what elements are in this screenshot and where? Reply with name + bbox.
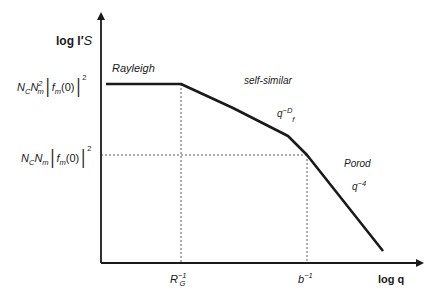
t: 2 <box>82 73 86 82</box>
y-axis-arrow-icon <box>97 12 105 20</box>
x-axis-label: log q <box>378 273 404 285</box>
t: G <box>180 279 186 288</box>
y-label-text: log I <box>56 34 81 48</box>
scattering-curve <box>106 84 383 251</box>
y-label-s: S <box>84 33 93 48</box>
region-rayleigh: Rayleigh <box>112 62 155 74</box>
t: N <box>17 81 25 93</box>
exponent-self-similar: q−Df <box>277 108 294 119</box>
t: −1 <box>304 271 313 280</box>
t: (0) <box>66 152 79 164</box>
t: 2 <box>87 144 91 153</box>
t: −D <box>283 106 293 115</box>
region-self-similar: self-similar <box>244 75 292 86</box>
t: (0) <box>61 81 74 93</box>
t: −4 <box>358 179 367 188</box>
x-axis-arrow-icon <box>416 259 424 267</box>
t: R <box>170 273 178 285</box>
x-tick-b: b−1 <box>298 273 313 285</box>
exponent-porod: q−4 <box>352 181 366 192</box>
x-tick-rg: R−1G <box>170 273 185 285</box>
y-axis-label: log I′S <box>56 33 92 48</box>
y-tick-lower: NCNm|fm(0)|2 <box>21 148 91 165</box>
t: N <box>21 152 29 164</box>
region-porod: Porod <box>344 158 371 169</box>
t: m <box>38 87 44 96</box>
y-tick-upper: NCN2m|fm(0)|2 <box>17 77 87 94</box>
t: m <box>42 158 48 167</box>
